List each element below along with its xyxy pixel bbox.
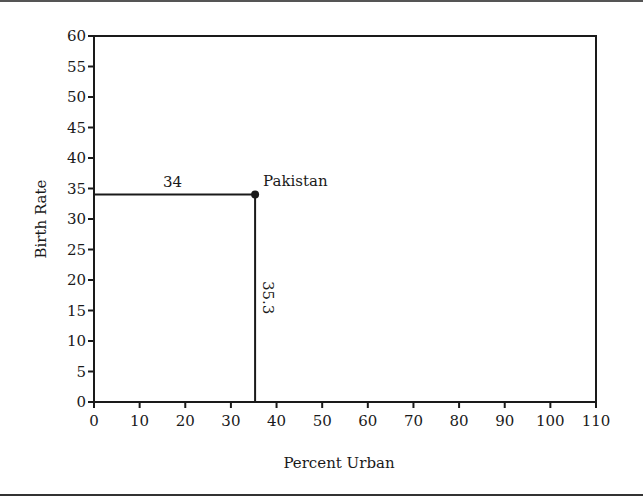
- y-tick-label: 0: [76, 393, 86, 411]
- x-tick-label: 30: [221, 412, 240, 430]
- data-point-pakistan: [251, 191, 259, 199]
- y-tick-label: 25: [67, 241, 86, 259]
- x-tick-label: 70: [404, 412, 423, 430]
- x-tick-label: 0: [89, 412, 99, 430]
- x-axis-label: Percent Urban: [283, 454, 395, 472]
- y-tick-label: 15: [67, 302, 86, 320]
- vertical-value-label: 35.3: [259, 281, 277, 314]
- y-tick-label: 40: [67, 149, 86, 167]
- y-tick-label: 60: [67, 27, 86, 45]
- y-tick-label: 20: [67, 271, 86, 289]
- y-tick-label: 45: [67, 119, 86, 137]
- scatter-chart: 0510152025303540455055600102030405060708…: [0, 0, 643, 498]
- x-tick-label: 20: [176, 412, 195, 430]
- x-tick-label: 10: [130, 412, 149, 430]
- x-tick-label: 110: [582, 412, 611, 430]
- point-label: Pakistan: [263, 172, 328, 190]
- x-tick-label: 90: [495, 412, 514, 430]
- x-tick-label: 80: [450, 412, 469, 430]
- horizontal-value-label: 34: [163, 173, 182, 191]
- x-tick-label: 100: [536, 412, 565, 430]
- x-tick-label: 40: [267, 412, 286, 430]
- y-tick-label: 5: [76, 363, 86, 381]
- y-tick-label: 55: [67, 58, 86, 76]
- y-tick-label: 50: [67, 88, 86, 106]
- y-tick-label: 30: [67, 210, 86, 228]
- plot-frame: [94, 36, 596, 402]
- x-tick-label: 50: [313, 412, 332, 430]
- y-tick-label: 35: [67, 180, 86, 198]
- y-axis-label: Birth Rate: [32, 179, 50, 258]
- x-tick-label: 60: [358, 412, 377, 430]
- y-tick-label: 10: [67, 332, 86, 350]
